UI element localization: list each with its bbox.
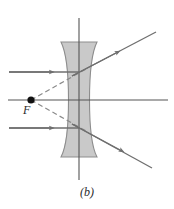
panel-label: (b) [0, 186, 174, 198]
diverging-lens-figure: F (b) [0, 0, 174, 209]
focal-point-label: F [23, 104, 30, 116]
